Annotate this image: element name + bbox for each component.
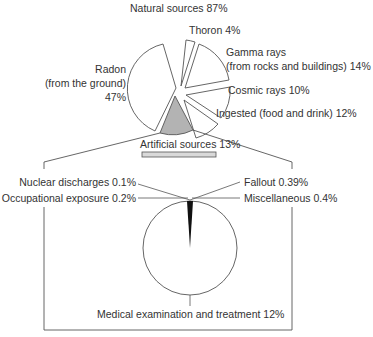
radon-label-line1: Radon [60,63,126,76]
misc-label: Miscellaneous 0.4% [244,192,337,205]
artificial-title: Artificial sources 13% [140,138,240,151]
thoron-label: Thoron 4% [189,24,240,37]
natural-pie [127,40,230,138]
radiation-sources-diagram [0,0,373,337]
artificial-bar [142,152,216,157]
radon-label-line2: (from the ground) [28,77,126,90]
nuclear-label: Nuclear discharges 0.1% [0,176,136,189]
cosmic-label: Cosmic rays 10% [228,84,310,97]
medical-label: Medical examination and treatment 12% [97,308,284,321]
gamma-label-line1: Gamma rays [226,46,286,59]
natural-title: Natural sources 87% [130,2,227,15]
gamma-label-line2: (from rocks and buildings) 14% [226,60,371,73]
ingested-label: Ingested (food and drink) 12% [216,107,357,120]
occupational-label: Occupational exposure 0.2% [0,192,136,205]
radon-label-line3: 47% [60,91,126,104]
fallout-label: Fallout 0.39% [244,176,308,189]
artificial-pie [143,201,237,295]
